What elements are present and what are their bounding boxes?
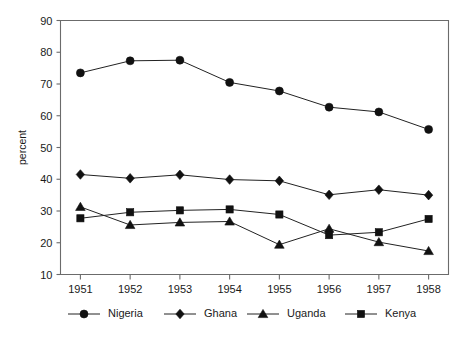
- square-marker: [77, 215, 84, 222]
- square-marker: [375, 229, 382, 236]
- legend-item-ghana[interactable]: Ghana: [164, 307, 238, 319]
- circle-marker: [176, 56, 184, 64]
- x-tick-label: 1952: [118, 283, 142, 295]
- square-marker: [425, 215, 432, 222]
- chart-figure: 102030405060708090 195119521953195419551…: [0, 0, 471, 338]
- circle-marker: [76, 69, 84, 77]
- square-marker: [226, 206, 233, 213]
- diamond-marker: [126, 173, 134, 183]
- circle-marker: [425, 125, 433, 133]
- legend-item-nigeria[interactable]: Nigeria: [68, 307, 144, 319]
- triangle-marker: [76, 202, 86, 210]
- triangle-marker: [258, 309, 268, 317]
- legend-item-uganda[interactable]: Uganda: [247, 307, 326, 319]
- x-tick-label: 1954: [217, 283, 241, 295]
- y-tick-label: 20: [40, 237, 52, 249]
- diamond-marker: [424, 190, 432, 200]
- square-marker: [127, 209, 134, 216]
- legend-label-text: Kenya: [385, 307, 417, 319]
- series-ghana: [76, 170, 433, 200]
- y-tick-label: 50: [40, 142, 52, 154]
- y-axis-label-text: percent: [16, 130, 28, 165]
- square-marker: [326, 232, 333, 239]
- y-tick-label: 90: [40, 15, 52, 27]
- triangle-marker: [275, 240, 285, 248]
- diamond-marker: [76, 170, 84, 180]
- legend-item-kenya[interactable]: Kenya: [345, 307, 417, 319]
- y-axis-ticks: 102030405060708090: [40, 15, 60, 281]
- plot-frame: [61, 21, 449, 275]
- x-tick-label: 1953: [168, 283, 192, 295]
- x-tick-label: 1958: [416, 283, 440, 295]
- circle-marker: [126, 57, 134, 65]
- x-tick-label: 1956: [317, 283, 341, 295]
- diamond-marker: [225, 175, 233, 185]
- circle-marker: [80, 310, 88, 318]
- triangle-marker: [324, 224, 334, 232]
- square-marker: [176, 207, 183, 214]
- y-tick-label: 70: [40, 78, 52, 90]
- series-line-nigeria: [80, 60, 428, 129]
- x-tick-label: 1951: [68, 283, 92, 295]
- y-tick-label: 30: [40, 205, 52, 217]
- chart-series: [76, 56, 434, 254]
- diamond-marker: [325, 190, 333, 200]
- legend-label-text: Nigeria: [108, 307, 144, 319]
- y-tick-label: 60: [40, 110, 52, 122]
- x-tick-label: 1955: [267, 283, 291, 295]
- circle-marker: [226, 78, 234, 86]
- x-tick-label: 1957: [367, 283, 391, 295]
- y-tick-label: 10: [40, 269, 52, 281]
- series-nigeria: [76, 56, 432, 133]
- x-axis-ticks: 19511952195319541955195619571958: [68, 275, 441, 295]
- diamond-marker: [275, 176, 283, 186]
- circle-marker: [275, 87, 283, 95]
- y-tick-label: 80: [40, 46, 52, 58]
- chart-legend: NigeriaGhanaUgandaKenya: [68, 307, 417, 319]
- square-marker: [357, 310, 364, 317]
- line-chart: 102030405060708090 195119521953195419551…: [0, 0, 471, 338]
- diamond-marker: [176, 170, 184, 180]
- legend-label-text: Ghana: [204, 307, 238, 319]
- square-marker: [276, 211, 283, 218]
- chart-axes: [61, 21, 449, 275]
- triangle-marker: [225, 217, 235, 225]
- legend-label-text: Uganda: [287, 307, 326, 319]
- circle-marker: [375, 108, 383, 116]
- diamond-marker: [375, 185, 383, 195]
- y-tick-label: 40: [40, 173, 52, 185]
- circle-marker: [325, 103, 333, 111]
- y-axis-title: percent: [16, 130, 28, 165]
- diamond-marker: [176, 309, 184, 319]
